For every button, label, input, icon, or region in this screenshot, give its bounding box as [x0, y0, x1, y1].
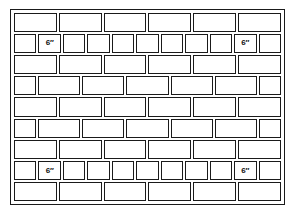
brick-half: [14, 76, 36, 95]
brick-full: [215, 119, 257, 138]
brick-row-2: 6″6″: [13, 33, 283, 54]
brick-full: [193, 140, 236, 159]
brick-square: [112, 161, 134, 180]
brick-full: [104, 140, 147, 159]
brick-full: [14, 140, 57, 159]
brick-dimension-label: 6″: [46, 39, 54, 47]
brick-full: [14, 55, 57, 74]
brick-full: [193, 55, 236, 74]
brick-full: [126, 119, 168, 138]
brick-half: [14, 161, 36, 180]
brick-square: [112, 34, 134, 53]
brick-full: [82, 119, 124, 138]
brick-full: [148, 13, 191, 32]
brick-full: [238, 13, 281, 32]
brick-full: [238, 140, 281, 159]
brick-full: [193, 182, 236, 201]
brick-full: [148, 97, 191, 116]
brick-row-3: [13, 54, 283, 75]
brick-full: [148, 182, 191, 201]
brick-square: [87, 34, 109, 53]
brick-half: [259, 34, 281, 53]
brick-dimension-label: 6″: [46, 167, 54, 175]
brick-half: [259, 161, 281, 180]
brick-full: [148, 55, 191, 74]
brick-row-8: 6″6″: [13, 160, 283, 181]
brick-full: [14, 182, 57, 201]
brick-full: [82, 76, 124, 95]
brick-full: [104, 55, 147, 74]
brick-full: [59, 182, 102, 201]
wall-outer-frame: 6″6″6″6″: [10, 9, 285, 205]
brick-square: [185, 161, 207, 180]
brick-full: [238, 55, 281, 74]
brick-full: [171, 76, 213, 95]
brick-square: 6″: [38, 34, 60, 53]
brick-square: 6″: [38, 161, 60, 180]
brick-row-7: [13, 139, 283, 160]
brick-row-9: [13, 181, 283, 202]
brick-square: [136, 161, 158, 180]
brick-row-4: [13, 75, 283, 96]
brick-full: [59, 97, 102, 116]
brick-full: [238, 182, 281, 201]
brick-half: [259, 76, 281, 95]
brick-square: [63, 161, 85, 180]
brick-half: [14, 34, 36, 53]
brick-half: [14, 119, 36, 138]
brick-full: [193, 13, 236, 32]
brick-wall-diagram: 6″6″6″6″: [0, 0, 293, 217]
brick-full: [104, 182, 147, 201]
brick-full: [193, 97, 236, 116]
brick-full: [14, 13, 57, 32]
brick-square: [161, 34, 183, 53]
brick-full: [59, 13, 102, 32]
brick-square: [210, 161, 232, 180]
brick-square: [136, 34, 158, 53]
brick-row-6: [13, 118, 283, 139]
brick-row-1: [13, 12, 283, 33]
brick-full: [215, 76, 257, 95]
brick-full: [14, 97, 57, 116]
brick-square: [63, 34, 85, 53]
brick-half: [259, 119, 281, 138]
brick-square: [87, 161, 109, 180]
brick-square: [161, 161, 183, 180]
brick-full: [38, 76, 80, 95]
brick-full: [59, 140, 102, 159]
brick-full: [148, 140, 191, 159]
brick-square: [210, 34, 232, 53]
brick-full: [104, 97, 147, 116]
brick-dimension-label: 6″: [241, 39, 249, 47]
brick-square: 6″: [234, 161, 256, 180]
brick-full: [104, 13, 147, 32]
brick-full: [238, 97, 281, 116]
brick-full: [171, 119, 213, 138]
brick-dimension-label: 6″: [241, 167, 249, 175]
brick-row-5: [13, 96, 283, 117]
brick-full: [59, 55, 102, 74]
brick-full: [38, 119, 80, 138]
brick-square: [185, 34, 207, 53]
brick-full: [126, 76, 168, 95]
brick-square: 6″: [234, 34, 256, 53]
